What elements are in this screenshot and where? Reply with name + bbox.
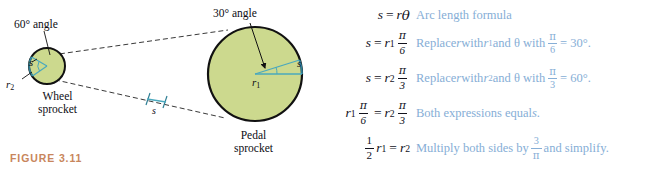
derivation-panel: s = rθ Arc length formula s = r1π6 Repla… [330,0,646,183]
note2-frac-numerator: π [547,66,558,77]
pedal-sprocket-label: Pedal sprocket [234,129,273,154]
equation-line: s = r2π3 [330,65,416,90]
eq4-rhs-subscript: 2 [405,143,410,154]
pedal-sprocket-label-line1: Pedal [234,129,273,142]
eq3-operator: = [374,105,382,121]
note2-mid2: and θ with [493,71,546,86]
eq1-rhs-subscript: 1 [390,38,395,49]
arc-length-small-label: s [29,57,33,69]
arc-length-large-label: s [297,58,301,70]
wheel-sprocket-label: Wheel sprocket [38,90,77,115]
wheel-sprocket-label-line2: sprocket [38,103,77,116]
eq2-rhs-subscript: 2 [390,73,395,84]
eq1-lhs: s [366,35,371,51]
equation-line: r1π6 = r2π3 [330,100,416,125]
eq2-frac-numerator: π [397,65,408,77]
derivation-row: s = r1π6 Replace r with r1 and θ with π6… [330,25,646,61]
pedal-sprocket-label-line2: sprocket [234,142,273,155]
note3-before: Both expressions equal [416,106,532,121]
wheel-sprocket-label-line1: Wheel [38,90,77,103]
equation-note: Multiply both sides by 3π and simplify. [416,136,646,160]
equation-line: s = r1π6 [330,30,416,55]
bicycle-sprocket-figure: 60° angle 30° angle Wheel sprocket Pedal… [0,0,330,183]
note2-mid1: with [461,71,483,86]
eq0-operator: = [386,7,394,23]
eq3-lhs-frac-numerator: π [358,100,369,112]
note2-equals: = 60°. [560,71,591,86]
eq3-lhs-fraction: π6 [358,100,369,125]
note2-before: Replace [416,71,456,86]
eq2-operator: = [374,70,382,86]
figure-caption: FIGURE 3.11 [10,152,82,164]
note4-frac-numerator: 3 [532,136,541,147]
note1-fraction: π6 [547,31,558,55]
eq3-rhs-subscript: 2 [390,108,395,119]
equation-note: Replace r with r1 and θ with π6 = 30°. [416,31,646,55]
eq1-fraction: π6 [397,30,408,55]
eq3-rhs-fraction: π3 [397,100,408,125]
note4-after: and simplify. [544,141,609,156]
angle-small-label: 60° angle [14,18,58,31]
note1-before: Replace [416,36,456,51]
eq1-frac-denominator: 6 [398,43,408,56]
derivation-row: r1π6 = r2π3 Both expressions equal s. [330,95,646,131]
angle-large-label: 30° angle [213,7,257,20]
equation-line: s = rθ [330,7,416,23]
note1-equals: = 30°. [560,36,591,51]
equation-line: 12r1 = r2 [330,135,416,160]
note4-fraction: 3π [531,136,542,160]
equation-note: Both expressions equal s. [416,106,646,121]
radius-small-leader-line [22,72,32,79]
eq0-rhs-theta: θ [402,7,410,23]
radius-large-label: r1 [252,76,260,91]
note1-frac-numerator: π [547,31,558,42]
radius-large-subscript: 1 [256,81,260,90]
arc-length-chain-label: s [152,105,156,116]
eq4-lhs-frac-denominator: 2 [365,148,375,161]
eq2-lhs: s [366,70,371,86]
equation-note: Arc length formula [416,8,646,23]
figure-page: 60° angle 30° angle Wheel sprocket Pedal… [0,0,646,183]
chain-upper-line [52,30,228,55]
eq4-lhs-fraction: 12 [365,135,375,160]
eq2-fraction: π3 [397,65,408,90]
eq2-frac-denominator: 3 [398,78,408,91]
note1-frac-denominator: 6 [548,43,557,55]
eq4-lhs-subscript: 1 [381,143,386,154]
eq1-frac-numerator: π [397,30,408,42]
eq3-rhs-frac-numerator: π [397,100,408,112]
eq1-operator: = [374,35,382,51]
eq3-lhs-subscript: 1 [351,108,356,119]
eq0-lhs: s [378,7,383,23]
radius-small-subscript: 2 [10,83,14,92]
note4-before: Multiply both sides by [416,141,529,156]
eq4-lhs-frac-numerator: 1 [365,135,375,147]
note0-text: Arc length formula [416,8,512,23]
note2-fraction: π3 [547,66,558,90]
note1-mid1: with [461,36,483,51]
note3-after: . [537,106,540,121]
eq3-rhs-frac-denominator: 3 [398,113,408,126]
derivation-row: 12r1 = r2 Multiply both sides by 3π and … [330,130,646,166]
eq3-lhs-frac-denominator: 6 [359,113,369,126]
equation-note: Replace r with r2 and θ with π3 = 60°. [416,66,646,90]
radius-small-label: r2 [6,78,14,93]
note2-frac-denominator: 3 [548,78,557,90]
derivation-row: s = r2π3 Replace r with r2 and θ with π3… [330,60,646,96]
note1-mid2: and θ with [493,36,546,51]
eq4-operator: = [389,140,397,156]
note4-frac-denominator: π [531,148,542,160]
